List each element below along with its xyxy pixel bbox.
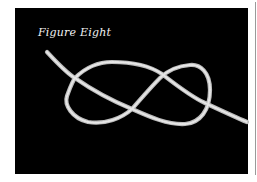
figure-eight-knot-illustration: [0, 0, 257, 182]
page-edge-line: [255, 2, 256, 175]
